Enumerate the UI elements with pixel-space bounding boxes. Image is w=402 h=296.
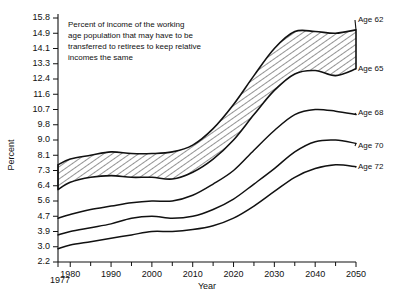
x-axis-tick-label: 2010: [183, 269, 203, 279]
y-axis-tick-label: 2.2: [37, 256, 50, 266]
annotation-line: age population that may have to be: [68, 31, 194, 40]
chart-annotation: Percent of income of the workingage popu…: [68, 20, 202, 62]
y-axis-tick-label: 5.6: [37, 195, 50, 205]
y-axis-tick-label: 14.1: [32, 43, 50, 53]
x-axis-title: Year: [198, 281, 216, 291]
annotation-line: Percent of income of the working: [68, 20, 185, 29]
chart-figure: 15.814.914.113.312.411.610.79.89.08.17.3…: [0, 0, 402, 296]
y-axis-tick-label: 13.3: [32, 58, 50, 68]
y-axis-tick-label: 8.1: [37, 150, 50, 160]
x-axis-ticks: 19801990200020102020203020402050: [58, 262, 366, 279]
y-axis-tick-label: 3.9: [37, 226, 50, 236]
x-axis-tick-label: 2000: [142, 269, 162, 279]
y-axis-tick-label: 11.6: [33, 89, 50, 99]
y-axis-tick-label: 3.0: [37, 241, 50, 251]
y-axis-tick-label: 9.0: [37, 134, 50, 144]
x-axis-tick-label: 2040: [305, 269, 325, 279]
y-axis-ticks: 15.814.914.113.312.411.610.79.89.08.17.3…: [32, 12, 58, 266]
series-label-age-62: Age 62: [358, 15, 384, 24]
series-label-age-68: Age 68: [358, 108, 384, 117]
x-axis-tick-label: 2030: [264, 269, 284, 279]
income-transfer-line-chart: 15.814.914.113.312.411.610.79.89.08.17.3…: [0, 0, 402, 296]
series-labels: Age 62Age 65Age 68Age 70Age 72: [358, 15, 384, 171]
series-label-age-70: Age 70: [358, 141, 384, 150]
series-curves: [58, 109, 356, 248]
series-label-age-72: Age 72: [358, 162, 384, 171]
y-axis-tick-label: 6.4: [37, 180, 50, 190]
y-axis-tick-label: 9.8: [37, 119, 50, 129]
leader-line-age-62: [355, 20, 356, 30]
x-axis-tick-label: 2050: [346, 269, 366, 279]
x-axis-origin-label: 1977: [50, 275, 70, 285]
x-axis-tick-label: 1990: [101, 269, 121, 279]
y-axis-tick-label: 12.4: [32, 73, 50, 83]
annotation-line: transferred to retirees to keep relative: [68, 42, 202, 51]
series-label-age-65: Age 65: [358, 64, 384, 73]
x-axis-tick-label: 2020: [224, 269, 244, 279]
annotation-line: incomes the same: [68, 53, 133, 62]
y-axis-tick-label: 10.7: [32, 104, 50, 114]
y-axis-tick-label: 14.9: [32, 28, 50, 38]
y-axis-tick-label: 15.8: [32, 12, 50, 22]
y-axis-title: Percent: [6, 139, 16, 171]
y-axis-tick-label: 7.3: [37, 165, 50, 175]
y-axis-tick-label: 4.7: [37, 211, 50, 221]
